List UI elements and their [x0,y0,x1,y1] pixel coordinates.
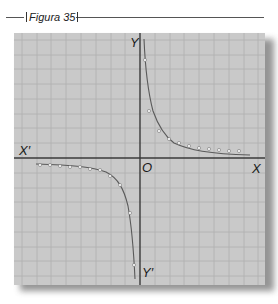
hyperbola-branch-q1 [144,39,250,155]
hyperbola-graph [14,33,265,285]
x-axis-label: X [252,161,261,176]
caption-bar-left [26,12,27,22]
y-neg-axis-label: Y′ [142,265,153,280]
origin-label: O [142,160,152,175]
caption-bar-right [77,12,78,22]
caption-text: Figura 35 [29,11,75,23]
y-axis-label: Y [130,35,139,50]
caption-rule-right [76,17,264,18]
figure-caption: Figura 35 [22,10,82,24]
plot-area: Y Y′ X′ X O [14,33,265,285]
x-neg-axis-label: X′ [19,143,30,158]
